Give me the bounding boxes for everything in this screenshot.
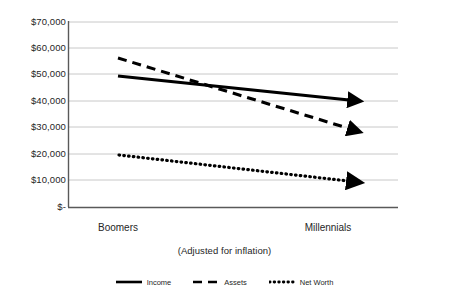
legend-solid-line-icon: [116, 277, 142, 287]
legend-item-assets[interactable]: Assets: [193, 277, 247, 287]
chart-legend: Income Assets Net Worth: [0, 277, 449, 287]
legend-dashed-line-icon: [193, 277, 219, 287]
chart-subtitle: (Adjusted for inflation): [0, 245, 449, 256]
series-line-net-worth: [119, 155, 348, 181]
series-line-assets: [118, 58, 349, 129]
x-axis-tick-label-boomers: Boomers: [78, 222, 158, 234]
x-axis-tick-label-millennials: Millennials: [278, 222, 378, 234]
legend-item-income[interactable]: Income: [116, 277, 172, 287]
line-chart: $70,000 $60,000 $50,000 $40,000 $30,000 …: [0, 0, 449, 298]
legend-dotted-line-icon: [269, 277, 295, 287]
legend-label-income: Income: [147, 278, 172, 287]
legend-label-net-worth: Net Worth: [300, 278, 334, 287]
legend-label-assets: Assets: [224, 278, 247, 287]
series-line-income: [118, 76, 349, 100]
legend-item-net-worth[interactable]: Net Worth: [269, 277, 334, 287]
